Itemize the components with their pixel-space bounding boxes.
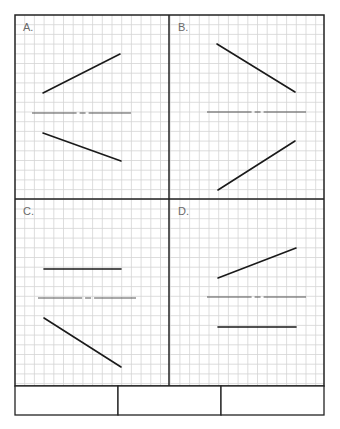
panel-label-c: C. [23, 205, 34, 217]
panel-d [207, 248, 306, 327]
answer-box-3[interactable] [221, 386, 324, 415]
line-segment [218, 141, 295, 190]
panel-label-d: D. [178, 205, 189, 217]
worksheet-canvas [0, 0, 340, 429]
panel-borders [15, 15, 324, 386]
mirror-symmetry-worksheet: A. B. C. D. [0, 0, 340, 429]
answer-boxes [15, 386, 324, 415]
panel-label-b: B. [178, 21, 188, 33]
panel-label-a: A. [23, 21, 33, 33]
line-segment [218, 248, 296, 278]
answer-box-2[interactable] [118, 386, 221, 415]
panel-b [207, 44, 306, 190]
answer-box-1[interactable] [15, 386, 118, 415]
line-segment [43, 133, 121, 161]
panel-a [32, 54, 131, 161]
